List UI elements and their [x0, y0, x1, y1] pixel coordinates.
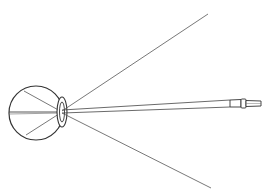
ray-upper [62, 14, 208, 111]
pencil-ray-top [62, 100, 230, 110]
eye-internal-ray-upper [24, 91, 62, 112]
pencil-ray-bottom [62, 107, 230, 113]
eye-diagram [0, 0, 270, 194]
lens-icon [57, 97, 67, 127]
eye-optical-axis-2 [9, 113, 62, 114]
pencil-icon [230, 99, 261, 108]
ray-lower [62, 113, 211, 188]
diagram-canvas [0, 0, 270, 194]
